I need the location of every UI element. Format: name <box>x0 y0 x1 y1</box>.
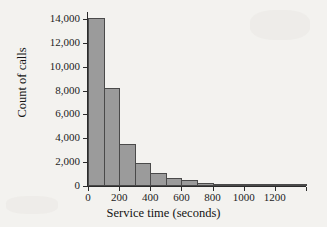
histogram-bar <box>104 88 121 186</box>
y-tick-label-wrap: 12,000 <box>0 37 80 48</box>
y-tick-label: 12,000 <box>50 37 80 48</box>
y-tick-label-wrap: 0 <box>0 180 80 191</box>
y-tick-label: 0 <box>75 180 81 191</box>
histogram-bar <box>181 180 198 186</box>
histogram-bar <box>228 184 245 186</box>
y-tick-label: 8,000 <box>55 85 80 96</box>
plot-area <box>88 12 306 186</box>
y-tick-label: 10,000 <box>50 61 80 72</box>
histogram-bar <box>290 184 307 186</box>
histogram-bar <box>135 163 152 186</box>
histogram-bar <box>197 183 214 186</box>
histogram-bar <box>213 184 230 186</box>
histogram-bar <box>244 184 261 186</box>
y-tick-label-wrap: 10,000 <box>0 61 80 72</box>
histogram-bar <box>150 173 167 186</box>
x-axis-title: Service time (seconds) <box>0 206 327 221</box>
y-axis-title: Count of calls <box>15 13 30 153</box>
x-tick-mark <box>306 187 307 191</box>
histogram-bar <box>119 144 136 186</box>
histogram-bar <box>166 178 183 186</box>
y-tick-label: 2,000 <box>55 156 80 167</box>
histogram-bar <box>275 184 292 186</box>
y-tick-label-wrap: 6,000 <box>0 108 80 119</box>
histogram-bar <box>88 18 105 186</box>
y-tick-label: 4,000 <box>55 132 80 143</box>
y-tick-label-wrap: 2,000 <box>0 156 80 167</box>
y-tick-label-wrap: 8,000 <box>0 85 80 96</box>
y-tick-label-wrap: 14,000 <box>0 13 80 24</box>
y-tick-label-wrap: 4,000 <box>0 132 80 143</box>
x-tick-label: 1200 <box>250 192 300 203</box>
y-tick-label: 14,000 <box>50 13 80 24</box>
histogram-bar <box>259 184 276 186</box>
y-tick-label: 6,000 <box>55 108 80 119</box>
histogram-figure: 02,0004,0006,0008,00010,00012,00014,000 … <box>0 0 327 227</box>
